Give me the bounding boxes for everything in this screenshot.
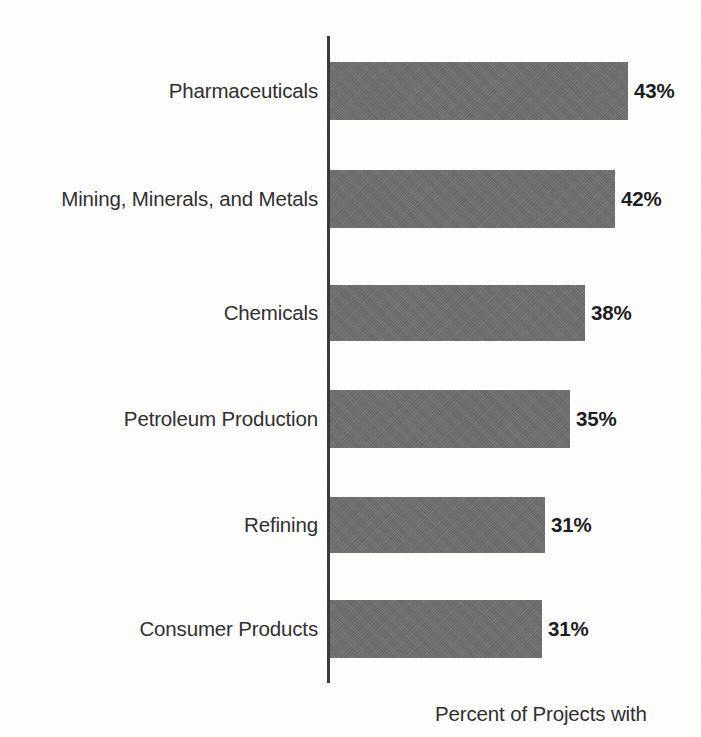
bar-row: Chemicals 38% <box>0 285 701 341</box>
bar-mining-minerals-metals[interactable] <box>330 170 615 228</box>
category-label: Pharmaceuticals <box>169 79 318 103</box>
category-label: Chemicals <box>224 301 318 325</box>
bar-value-label: 35% <box>576 407 616 431</box>
bar-row: Pharmaceuticals 43% <box>0 62 701 120</box>
bar-row: Mining, Minerals, and Metals 42% <box>0 170 701 228</box>
bar-value-label: 31% <box>548 617 588 641</box>
category-label: Petroleum Production <box>124 407 318 431</box>
bar-consumer-products[interactable] <box>330 600 542 658</box>
bar-value-label: 43% <box>634 79 674 103</box>
category-label: Refining <box>244 513 318 537</box>
bar-row: Consumer Products 31% <box>0 600 701 658</box>
bar-value-label: 38% <box>591 301 631 325</box>
bar-chemicals[interactable] <box>330 285 585 341</box>
category-label: Consumer Products <box>139 617 318 641</box>
bar-chart-plot-area: Pharmaceuticals 43% Mining, Minerals, an… <box>0 0 701 737</box>
bar-value-label: 42% <box>621 187 661 211</box>
bar-refining[interactable] <box>330 497 545 553</box>
bar-pharmaceuticals[interactable] <box>330 62 628 120</box>
bar-row: Petroleum Production 35% <box>0 390 701 448</box>
chart-figure: Pharmaceuticals 43% Mining, Minerals, an… <box>0 0 701 737</box>
bar-value-label: 31% <box>551 513 591 537</box>
category-axis-line <box>327 36 330 683</box>
category-label: Mining, Minerals, and Metals <box>61 187 318 211</box>
bar-row: Refining 31% <box>0 497 701 553</box>
bar-petroleum-production[interactable] <box>330 390 570 448</box>
x-axis-caption: Percent of Projects with <box>435 702 647 726</box>
